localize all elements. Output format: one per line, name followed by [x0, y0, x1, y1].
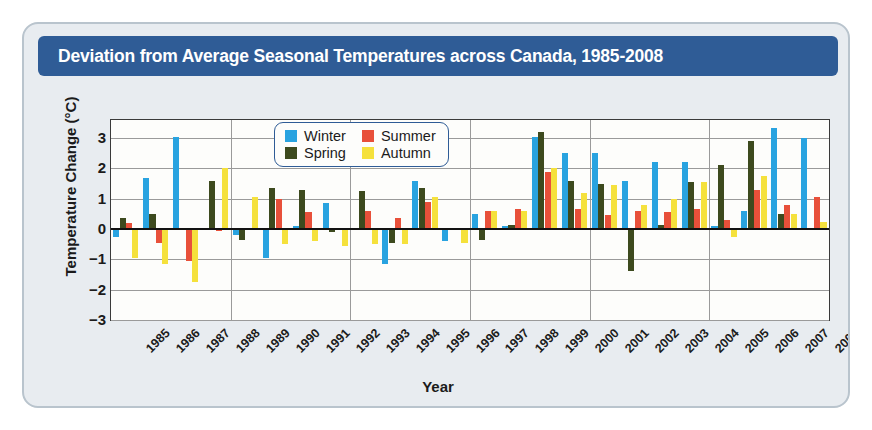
bar-autumn-1989: [252, 197, 258, 229]
bar-autumn-1990: [282, 229, 288, 244]
bar-group: [143, 120, 169, 320]
bar-group: [652, 120, 678, 320]
bar-group: [502, 120, 528, 320]
legend-item-spring: Spring: [285, 145, 346, 161]
bar-group: [562, 120, 588, 320]
bar-winter-2001: [592, 153, 598, 229]
bar-group: [532, 120, 558, 320]
bar-group: [173, 120, 199, 320]
bar-winter-2002: [622, 181, 628, 229]
bar-summer-1991: [305, 212, 311, 229]
bar-spring-1991: [299, 190, 305, 229]
x-tick-2001: 2001: [622, 326, 652, 356]
bar-summer-1993: [365, 211, 371, 229]
bar-spring-2006: [748, 141, 754, 229]
bar-summer-1987: [186, 229, 192, 261]
legend-label-spring: Spring: [304, 145, 346, 161]
bar-spring-1989: [239, 229, 245, 240]
bar-winter-1999: [532, 137, 538, 229]
x-tick-1988: 1988: [233, 326, 263, 356]
bar-group: [741, 120, 767, 320]
x-tick-1994: 1994: [413, 326, 443, 356]
bar-spring-2001: [598, 184, 604, 229]
x-tick-1990: 1990: [293, 326, 323, 356]
bar-autumn-1994: [402, 229, 408, 244]
chart-legend: Winter Summer Spring Autumn: [274, 122, 449, 167]
y-tick-0: 0: [80, 221, 106, 236]
legend-swatch-autumn: [362, 147, 374, 159]
bar-series-layer: [111, 120, 829, 320]
bar-spring-1997: [479, 229, 485, 240]
bar-autumn-1998: [521, 211, 527, 229]
x-tick-1996: 1996: [473, 326, 503, 356]
legend-label-autumn: Autumn: [381, 145, 431, 161]
bar-summer-1995: [425, 202, 431, 229]
chart-title: Deviation from Average Seasonal Temperat…: [38, 46, 663, 67]
bar-autumn-1993: [372, 229, 378, 244]
bar-spring-1994: [389, 229, 395, 243]
bar-spring-1999: [538, 132, 544, 229]
bar-winter-1987: [173, 137, 179, 229]
bar-autumn-1985: [132, 229, 138, 258]
bar-group: [771, 120, 797, 320]
figure-panel: Deviation from Average Seasonal Temperat…: [22, 22, 850, 408]
legend-swatch-spring: [285, 147, 297, 159]
bar-spring-1993: [359, 191, 365, 229]
bar-autumn-2006: [761, 176, 767, 229]
x-tick-1986: 1986: [173, 326, 203, 356]
bar-autumn-1986: [162, 229, 168, 264]
bar-autumn-1999: [551, 168, 557, 229]
y-tick-3: 3: [80, 130, 106, 145]
bar-winter-2000: [562, 153, 568, 229]
bar-group: [682, 120, 708, 320]
bar-group: [592, 120, 618, 320]
bar-winter-2004: [682, 162, 688, 229]
x-axis-title: Year: [38, 378, 838, 395]
bar-group: [203, 120, 229, 320]
bar-winter-1997: [472, 214, 478, 229]
bar-winter-2007: [771, 128, 777, 230]
bar-spring-2007: [778, 214, 784, 229]
x-tick-1998: 1998: [532, 326, 562, 356]
bar-spring-1990: [269, 188, 275, 229]
bar-group: [472, 120, 498, 320]
bar-spring-1995: [419, 188, 425, 229]
bar-winter-1986: [143, 178, 149, 230]
bar-autumn-2000: [581, 193, 587, 229]
bar-spring-2000: [568, 181, 574, 229]
y-tick--2: −2: [80, 281, 106, 296]
bar-summer-1990: [276, 199, 282, 229]
x-tick-1987: 1987: [203, 326, 233, 356]
y-tick-1: 1: [80, 190, 106, 205]
bar-autumn-1995: [432, 197, 438, 229]
bar-winter-1994: [382, 229, 388, 264]
legend-swatch-winter: [285, 130, 297, 142]
bar-summer-2004: [694, 209, 700, 229]
bar-winter-1995: [412, 181, 418, 229]
x-tick-1997: 1997: [503, 326, 533, 356]
plot-canvas: [110, 119, 830, 321]
x-tick-1992: 1992: [353, 326, 383, 356]
x-tick-2004: 2004: [712, 326, 742, 356]
bar-summer-2000: [575, 209, 581, 229]
bar-summer-2007: [784, 205, 790, 229]
bar-summer-1998: [515, 209, 521, 229]
bar-group: [113, 120, 139, 320]
x-tick-1985: 1985: [144, 326, 174, 356]
bar-autumn-2003: [671, 199, 677, 229]
bar-autumn-2001: [611, 185, 617, 229]
legend-item-winter: Winter: [285, 128, 346, 144]
bar-group: [711, 120, 737, 320]
y-tick-2: 2: [80, 160, 106, 175]
legend-item-summer: Summer: [362, 128, 436, 144]
legend-swatch-summer: [362, 130, 374, 142]
bar-autumn-1991: [312, 229, 318, 241]
x-tick-1999: 1999: [562, 326, 592, 356]
x-tick-1991: 1991: [323, 326, 353, 356]
bar-group: [233, 120, 259, 320]
bar-summer-2006: [754, 190, 760, 229]
y-axis-tick-labels: 3210−1−2−3: [80, 122, 106, 318]
x-tick-2007: 2007: [802, 326, 832, 356]
bar-autumn-2007: [791, 214, 797, 229]
bar-group: [622, 120, 648, 320]
